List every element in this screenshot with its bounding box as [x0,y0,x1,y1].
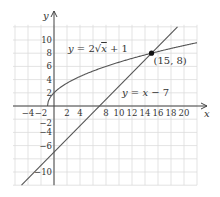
x-axis-label: x [204,108,210,119]
svg-text:2: 2 [64,108,69,118]
svg-text:−6: −6 [39,141,52,151]
curve-equation-label: y = 2√x + 1 [67,43,128,54]
line-equation-label: y = x − 7 [121,87,169,98]
svg-text:18: 18 [166,108,177,118]
svg-text:4: 4 [47,75,52,85]
svg-text:14: 14 [140,108,151,118]
y-axis-label: y [42,10,49,21]
svg-text:−10: −10 [34,167,52,177]
svg-text:−4: −4 [39,127,52,137]
point-label: (15, 8) [154,55,187,66]
svg-text:16: 16 [153,108,164,118]
svg-text:10: 10 [114,108,125,118]
svg-text:6: 6 [47,61,52,71]
svg-text:−2: −2 [35,108,48,118]
svg-text:8: 8 [103,108,108,118]
svg-text:4: 4 [77,108,82,118]
svg-text:20: 20 [179,108,190,118]
graph: −4−2248101214161820108642−2−4−6−10 (15, … [0,0,220,197]
svg-text:10: 10 [41,35,52,45]
svg-text:12: 12 [127,108,138,118]
svg-text:8: 8 [47,48,52,58]
svg-text:−4: −4 [22,108,35,118]
